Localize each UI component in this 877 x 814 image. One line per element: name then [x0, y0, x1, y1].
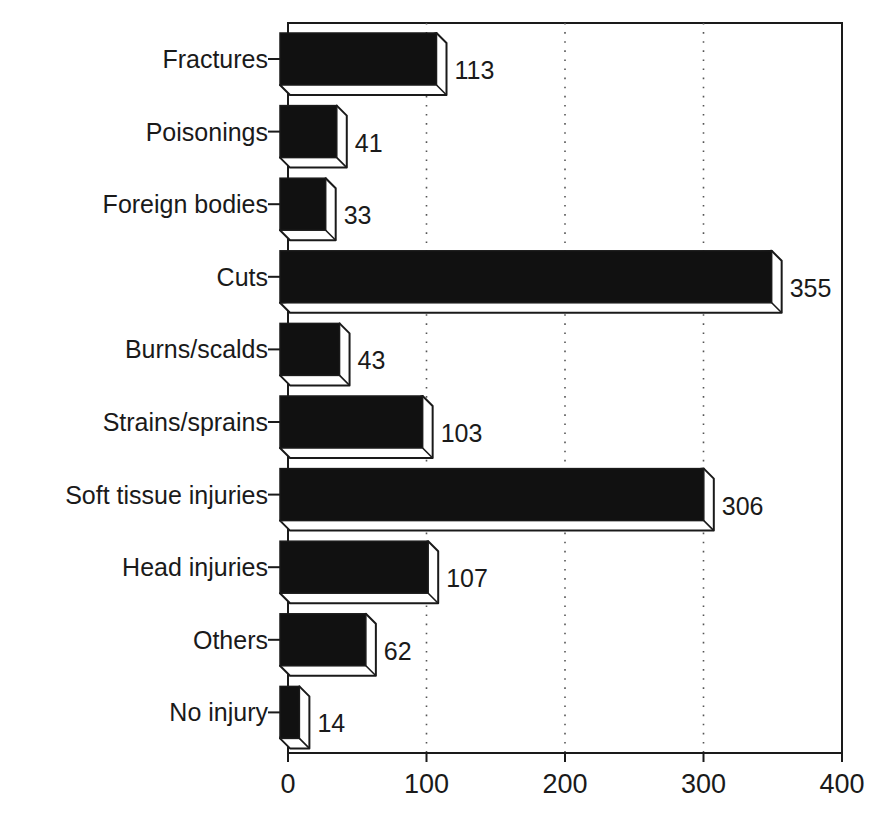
bar	[280, 33, 437, 85]
value-label: 355	[790, 274, 832, 302]
bar	[280, 469, 704, 521]
bar-group: Fractures113	[162, 33, 494, 95]
value-label: 113	[455, 56, 495, 84]
category-label: Others	[193, 626, 268, 654]
x-tick-label: 400	[819, 769, 864, 799]
bar-group: Soft tissue injuries306	[65, 469, 763, 531]
bar	[280, 396, 423, 448]
category-label: Strains/sprains	[103, 408, 268, 436]
value-label: 33	[344, 201, 372, 229]
value-label: 41	[355, 129, 383, 157]
category-label: No injury	[169, 698, 268, 726]
bar-group: Others62	[193, 614, 412, 676]
bars: Fractures113Poisonings41Foreign bodies33…	[65, 33, 831, 748]
category-label: Poisonings	[146, 118, 268, 146]
bar	[280, 178, 326, 230]
bar	[280, 106, 337, 158]
x-tick-label: 100	[404, 769, 449, 799]
bar	[280, 541, 428, 593]
bar-group: Strains/sprains103	[103, 396, 483, 458]
injury-bar-chart: Fractures113Poisonings41Foreign bodies33…	[0, 0, 877, 814]
bar-group: Head injuries107	[122, 541, 488, 603]
bar-group: Cuts355	[217, 251, 832, 313]
bar-group: Foreign bodies33	[103, 178, 372, 240]
value-label: 62	[384, 637, 412, 665]
bar	[280, 323, 340, 375]
bar-group: No injury14	[169, 686, 345, 748]
category-label: Fractures	[162, 45, 268, 73]
bar-group: Poisonings41	[146, 106, 383, 168]
x-axis: 0100200300400	[280, 753, 864, 799]
category-label: Burns/scalds	[125, 335, 268, 363]
bar-group: Burns/scalds43	[125, 323, 385, 385]
x-tick-label: 200	[542, 769, 587, 799]
bar	[280, 614, 366, 666]
category-label: Foreign bodies	[103, 190, 268, 218]
gridlines	[427, 23, 704, 753]
value-label: 14	[317, 709, 345, 737]
value-label: 43	[358, 346, 386, 374]
value-label: 107	[446, 564, 488, 592]
x-tick-label: 300	[681, 769, 726, 799]
value-label: 306	[722, 492, 764, 520]
value-label: 103	[441, 419, 483, 447]
bar	[280, 686, 299, 738]
category-label: Cuts	[217, 263, 268, 291]
x-tick-label: 0	[280, 769, 295, 799]
bar	[280, 251, 772, 303]
category-label: Head injuries	[122, 553, 268, 581]
category-label: Soft tissue injuries	[65, 481, 268, 509]
